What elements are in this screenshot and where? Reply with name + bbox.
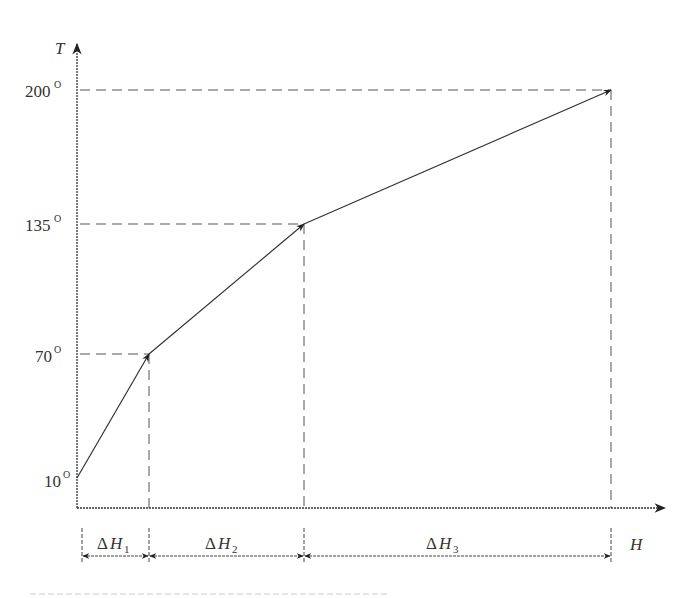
svg-text:10: 10 [44, 472, 61, 491]
segment-10-70 [77, 354, 149, 478]
segment-135-200 [304, 90, 611, 224]
svg-text:H: H [109, 534, 124, 553]
svg-text:200: 200 [25, 82, 51, 101]
segment-70-135 [149, 224, 304, 354]
svg-text:Δ: Δ [426, 534, 437, 553]
dh1-label: Δ H 1 [97, 534, 130, 555]
x-axis-label: H [629, 535, 644, 554]
svg-text:H: H [438, 534, 453, 553]
tick-70: 70 O [35, 344, 61, 366]
dh2-label: Δ H 2 [205, 534, 238, 555]
temperature-enthalpy-diagram: T H 200 O 135 O 70 O 10 O Δ H 1 Δ H [0, 0, 695, 598]
svg-text:O: O [63, 469, 70, 480]
svg-text:O: O [54, 344, 61, 355]
svg-text:2: 2 [232, 543, 238, 555]
svg-text:H: H [217, 534, 232, 553]
svg-text:1: 1 [124, 543, 130, 555]
svg-text:135: 135 [25, 216, 51, 235]
svg-text:Δ: Δ [97, 534, 108, 553]
svg-text:70: 70 [35, 347, 52, 366]
svg-text:O: O [54, 79, 61, 90]
svg-text:Δ: Δ [205, 534, 216, 553]
tick-135: 135 O [25, 213, 61, 235]
tick-200: 200 O [25, 79, 61, 101]
svg-text:O: O [54, 213, 61, 224]
y-axis-label: T [55, 39, 66, 58]
dh3-label: Δ H 3 [426, 534, 459, 555]
svg-text:3: 3 [453, 543, 459, 555]
tick-10: 10 O [44, 469, 70, 491]
